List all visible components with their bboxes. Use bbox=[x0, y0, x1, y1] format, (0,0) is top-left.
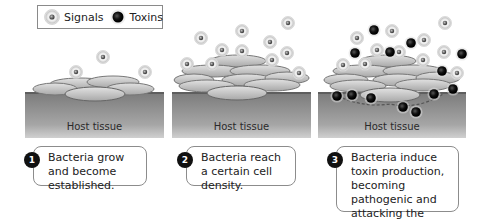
signal-molecule-icon bbox=[138, 65, 151, 78]
caption-text: Bacteria grow and become established. bbox=[48, 151, 124, 192]
step-number-badge: 1 bbox=[24, 152, 40, 168]
panel-2: Host tissue bbox=[172, 0, 311, 145]
signal-molecule-icon bbox=[69, 65, 82, 78]
bacteria-illustration bbox=[318, 0, 466, 145]
caption-step-1: 1 Bacteria grow and become established. bbox=[33, 146, 147, 186]
step-number-badge: 3 bbox=[327, 152, 343, 168]
caption-text: Bacteria induce toxin production, becomi… bbox=[351, 151, 444, 223]
panel-3: Host tissue bbox=[318, 0, 466, 145]
caption-step-2: 2 Bacteria reach a certain cell density. bbox=[186, 146, 296, 186]
panel-1: Host tissue bbox=[25, 0, 164, 145]
signal-molecule-icon bbox=[96, 50, 109, 63]
bacteria-illustration bbox=[172, 0, 311, 145]
caption-step-3: 3 Bacteria induce toxin production, beco… bbox=[336, 146, 459, 212]
caption-text: Bacteria reach a certain cell density. bbox=[201, 151, 281, 192]
bacteria-illustration bbox=[25, 0, 164, 145]
step-number-badge: 2 bbox=[177, 152, 193, 168]
